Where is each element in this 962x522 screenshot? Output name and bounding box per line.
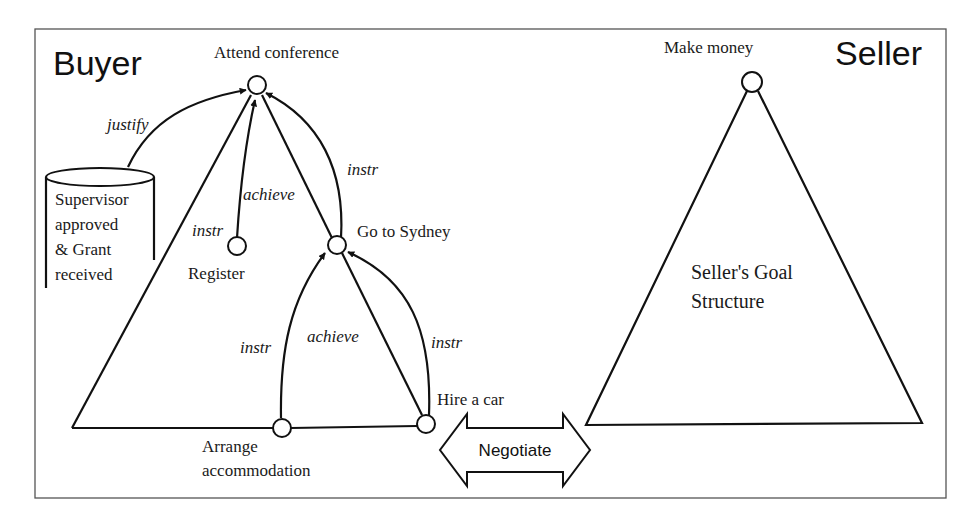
label-go-to-sydney: Go to Sydney [357,222,451,241]
belief-line-3: & Grant [55,240,111,259]
node-hire-a-car [417,415,435,433]
label-hire-a-car: Hire a car [437,390,504,409]
seller-goal-triangle [586,91,922,425]
label-make-money: Make money [664,38,754,57]
node-arrange-accommodation [273,419,291,437]
edge-label-instr-sydney: instr [347,160,379,179]
label-arrange: Arrange [202,437,258,456]
node-attend-conference [248,76,266,94]
edge-label-achieve-register: achieve [243,185,295,204]
label-attend-conference: Attend conference [214,43,339,62]
belief-line-2: approved [55,215,119,234]
buyer-title: Buyer [53,44,142,82]
sydney-attend-link [262,95,332,238]
edge-label-instr-car: instr [431,333,463,352]
edge-label-instr-accommodation: instr [240,338,272,357]
edge-label-instr-attend: instr [192,221,224,240]
node-register [228,237,246,255]
belief-line-1: Supervisor [55,190,129,209]
car-instr-arrow [348,252,429,415]
node-make-money [742,72,762,92]
seller-title: Seller [835,34,922,72]
negotiate-label: Negotiate [479,441,552,460]
register-achieve-arrow [237,100,255,238]
accommodation-car-link [291,426,417,428]
belief-line-4: received [55,265,113,284]
label-accommodation: accommodation [202,461,311,480]
node-go-to-sydney [328,236,346,254]
edge-label-justify: justify [105,115,149,134]
buyer-seller-goal-diagram: Buyer Seller Supervisor approved & Grant… [0,0,962,522]
seller-structure-line-1: Seller's Goal [691,261,793,283]
label-register: Register [188,264,245,283]
sydney-instr-arrow [266,93,341,238]
edge-label-achieve-car: achieve [307,327,359,346]
seller-structure-line-2: Structure [691,290,764,312]
buyer-triangle-left-edge [72,95,251,428]
